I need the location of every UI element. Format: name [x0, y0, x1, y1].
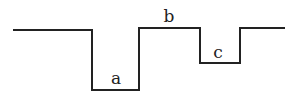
label-a: a — [111, 68, 121, 88]
diagram-svg: a b c — [0, 0, 297, 97]
label-c: c — [213, 42, 223, 62]
step-profile-diagram: a b c — [0, 0, 297, 97]
label-b: b — [164, 6, 175, 26]
step-profile-line — [13, 28, 285, 90]
